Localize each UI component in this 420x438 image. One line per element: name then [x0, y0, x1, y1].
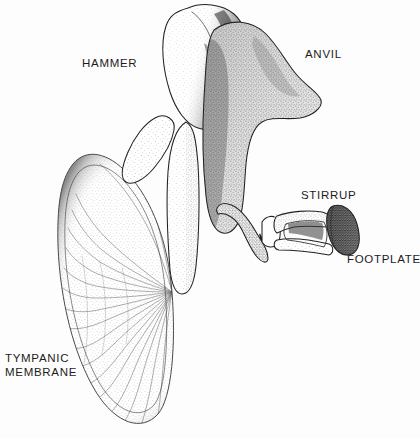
label-tympanic-membrane-line1: TYMPANIC: [5, 352, 69, 364]
label-anvil: ANVIL: [305, 47, 342, 61]
anatomical-figure: HAMMER ANVIL STIRRUP FOOTPLATE TYMPANICM…: [0, 0, 420, 438]
label-tympanic-membrane: TYMPANICMEMBRANE: [5, 351, 77, 379]
foramen-shadow: [288, 222, 324, 240]
label-stirrup: STIRRUP: [301, 188, 356, 202]
label-hammer: HAMMER: [82, 56, 137, 70]
label-tympanic-membrane-line2: MEMBRANE: [5, 366, 77, 378]
label-footplate: FOOTPLATE: [347, 252, 420, 266]
